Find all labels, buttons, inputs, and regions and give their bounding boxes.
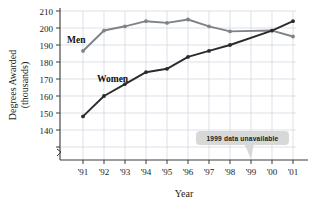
x-axis-ticks: [83, 160, 293, 164]
y-axis-title-line2: (thousands): [19, 62, 31, 109]
y-tick-label: 190: [40, 41, 54, 51]
x-tick-label: '91: [78, 167, 89, 177]
x-tick-label: '92: [99, 167, 110, 177]
series-label-men: Men: [67, 35, 86, 45]
x-tick-label: '01: [288, 167, 299, 177]
y-tick-label: 210: [40, 7, 54, 17]
y-tick-label: 160: [40, 92, 54, 102]
y-tick-label: 150: [40, 109, 54, 119]
y-tick-label: 170: [40, 75, 54, 85]
x-tick-label: '98: [225, 167, 236, 177]
callout-tail: [244, 143, 254, 159]
x-tick-label: '95: [162, 167, 173, 177]
y-tick-label: 140: [40, 126, 54, 136]
y-tick-label: 180: [40, 58, 54, 68]
x-tick-label: '96: [183, 167, 194, 177]
x-axis-title: Year: [175, 188, 194, 199]
y-axis-ticks: [56, 11, 60, 147]
callout-1999-data-unavailable: 1999 data unavailable: [196, 131, 289, 159]
x-tick-label: '94: [141, 167, 152, 177]
x-tick-label: '97: [204, 167, 215, 177]
y-axis-title-line1: Degrees Awarded: [7, 50, 18, 120]
line-chart: 210 200 190 180 170 160 150 140 '91 '92 …: [0, 0, 318, 207]
series-label-women: Women: [97, 74, 129, 84]
x-tick-label: '99: [246, 167, 257, 177]
x-tick-label: '93: [120, 167, 131, 177]
x-tick-label: '00: [267, 167, 278, 177]
chart-svg: 210 200 190 180 170 160 150 140 '91 '92 …: [0, 0, 318, 207]
men-line-segment-1: [83, 20, 230, 51]
callout-label: 1999 data unavailable: [206, 135, 278, 142]
y-tick-label: 200: [40, 24, 54, 34]
y-tick-labels: 210 200 190 180 170 160 150 140: [40, 7, 54, 136]
x-tick-labels: '91 '92 '93 '94 '95 '96 '97 '98 '99 '00 …: [78, 167, 299, 177]
